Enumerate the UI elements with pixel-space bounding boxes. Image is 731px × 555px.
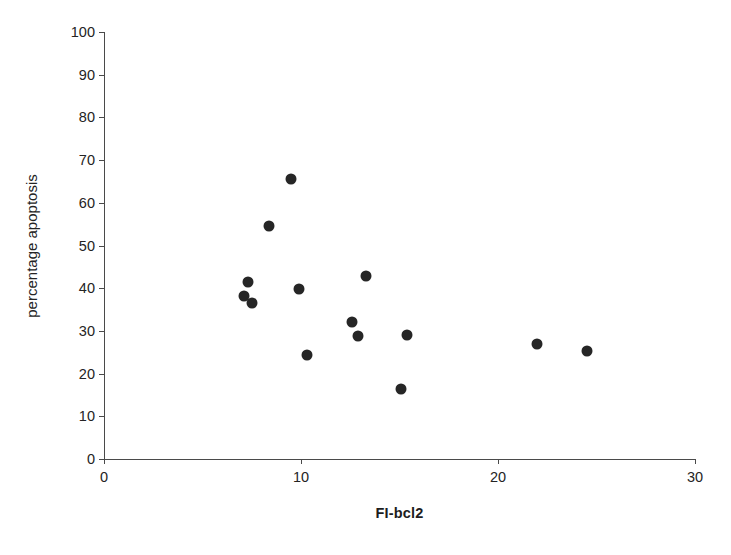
x-tick-mark [104, 459, 105, 464]
x-tick-label: 30 [687, 469, 703, 485]
data-point [396, 384, 407, 395]
data-point [242, 276, 253, 287]
y-tick-label: 40 [79, 280, 95, 296]
data-point [532, 339, 543, 350]
y-tick-mark [99, 331, 104, 332]
y-axis-line [104, 32, 105, 459]
data-point [246, 297, 257, 308]
y-axis-title: percentage apoptosis [16, 32, 46, 460]
y-tick-label: 0 [87, 451, 95, 467]
x-tick-mark [301, 459, 302, 464]
y-tick-mark [99, 374, 104, 375]
data-point [581, 345, 592, 356]
data-point [347, 316, 358, 327]
y-tick-mark [99, 203, 104, 204]
data-point [402, 329, 413, 340]
data-point [361, 271, 372, 282]
data-point [264, 220, 275, 231]
x-axis-title: FI-bcl2 [104, 505, 695, 521]
y-tick-mark [99, 160, 104, 161]
y-tick-mark [99, 288, 104, 289]
x-tick-label: 0 [100, 469, 108, 485]
y-tick-label: 70 [79, 152, 95, 168]
x-tick-label: 20 [490, 469, 506, 485]
plot-area: 0102030405060708090100 0102030 [104, 32, 695, 459]
y-tick-mark [99, 416, 104, 417]
x-tick-mark [695, 459, 696, 464]
y-tick-label: 10 [79, 408, 95, 424]
data-point [286, 174, 297, 185]
y-tick-mark [99, 246, 104, 247]
y-tick-mark [99, 32, 104, 33]
scatter-chart-figure: percentage apoptosis 0102030405060708090… [0, 0, 731, 555]
y-tick-mark [99, 117, 104, 118]
y-tick-label: 90 [79, 67, 95, 83]
x-axis-line [104, 459, 695, 460]
x-tick-label: 10 [293, 469, 309, 485]
y-tick-label: 80 [79, 109, 95, 125]
y-tick-label: 50 [79, 238, 95, 254]
data-point [353, 331, 364, 342]
y-tick-label: 20 [79, 366, 95, 382]
y-tick-label: 100 [71, 24, 95, 40]
y-tick-label: 30 [79, 323, 95, 339]
y-axis-title-text: percentage apoptosis [23, 174, 40, 317]
data-point [294, 284, 305, 295]
x-tick-mark [498, 459, 499, 464]
y-tick-mark [99, 75, 104, 76]
data-point [301, 349, 312, 360]
y-tick-label: 60 [79, 195, 95, 211]
